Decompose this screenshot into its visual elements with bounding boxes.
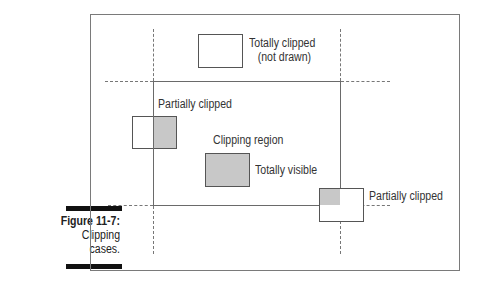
dashed-line-top-right (341, 81, 390, 82)
totally-clipped-label-line1: Totally clipped (249, 36, 315, 50)
dashed-line-bottom-left (108, 205, 153, 206)
partially-clipped-right-label: Partially clipped (369, 189, 443, 203)
totally-clipped-box (198, 34, 243, 68)
totally-visible-label: Totally visible (255, 163, 317, 177)
totally-clipped-label-line2: (not drawn) (249, 50, 315, 64)
dashed-line-left-bottom (153, 206, 154, 254)
partially-clipped-right-visible-part (320, 189, 340, 205)
totally-visible-box (205, 153, 250, 187)
dashed-line-right-top (340, 29, 341, 81)
totally-clipped-label: Totally clipped (not drawn) (249, 36, 315, 64)
dashed-line-left-top (153, 29, 154, 81)
dashed-line-top-left (105, 81, 153, 82)
clipping-region-label: Clipping region (213, 133, 283, 147)
